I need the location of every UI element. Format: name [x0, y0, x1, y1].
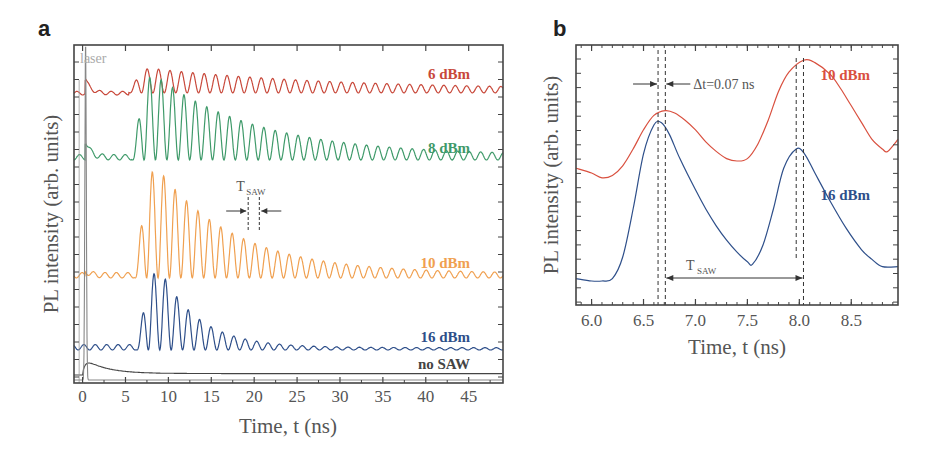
series-label-16-dbm: 16 dBm — [820, 187, 870, 203]
x-tick-label: 6.5 — [633, 311, 654, 330]
x-tick-label: 6.0 — [581, 311, 602, 330]
panel-b-letter: b — [553, 16, 566, 41]
x-tick-label: 0 — [78, 387, 87, 406]
x-tick-label: 25 — [289, 387, 306, 406]
delta-arrowhead-left — [650, 81, 657, 87]
series-label-16-dbm: 16 dBm — [420, 329, 470, 345]
tsaw-label: T — [236, 179, 245, 194]
panel-a-y-axis-label: PL intensity (arb. units) — [39, 115, 63, 314]
series-label-6-dbm: 6 dBm — [428, 66, 471, 82]
x-tick-label: 35 — [374, 387, 391, 406]
panel-b-y-axis-label: PL intensity (arb. units) — [539, 76, 563, 275]
delta-t-label: Δt=0.07 ns — [693, 77, 754, 92]
x-tick-label: 5 — [121, 387, 130, 406]
tsaw-label: T — [686, 258, 695, 273]
tsaw-arrowhead-right — [795, 275, 802, 281]
series-label-10-dbm: 10 dBm — [420, 255, 470, 271]
panel-a: a 6 dBm8 dBm10 dBm16 dBmno SAW laserTSAW… — [38, 16, 503, 438]
figure: a 6 dBm8 dBm10 dBm16 dBmno SAW laserTSAW… — [0, 0, 928, 453]
tsaw-arrowhead-right — [261, 208, 267, 214]
x-tick-label: 30 — [331, 387, 348, 406]
x-tick-label: 15 — [203, 387, 220, 406]
x-tick-label: 45 — [460, 387, 477, 406]
x-tick-label: 8.0 — [789, 311, 810, 330]
panel-b-x-axis-label: Time, t (ns) — [688, 335, 786, 359]
delta-arrowhead-right — [666, 81, 673, 87]
x-tick-label: 20 — [246, 387, 263, 406]
panel-a-curves: 6 dBm8 dBm10 dBm16 dBmno SAW — [74, 47, 503, 383]
tsaw-subscript: SAW — [246, 187, 266, 197]
panel-a-x-axis-label: Time, t (ns) — [239, 414, 337, 438]
series-label-8-dbm: 8 dBm — [428, 140, 471, 156]
x-tick-label: 8.5 — [841, 311, 862, 330]
series-label-no-saw: no SAW — [418, 356, 470, 372]
laser-label: laser — [80, 51, 107, 66]
panel-b-annotations: Δt=0.07 nsTSAW — [633, 50, 803, 305]
tsaw-subscript: SAW — [697, 266, 717, 276]
x-tick-label: 7.5 — [737, 311, 758, 330]
tsaw-arrowhead-left — [666, 275, 673, 281]
x-tick-label: 40 — [417, 387, 434, 406]
series-label-10-dbm: 10 dBm — [820, 67, 870, 83]
panel-b: b 10 dBm16 dBm Δt=0.07 nsTSAW 6.06.57.07… — [539, 16, 898, 359]
panel-b-curves: 10 dBm16 dBm — [576, 60, 898, 282]
x-tick-label: 7.0 — [685, 311, 706, 330]
tsaw-arrowhead-left — [240, 208, 246, 214]
x-tick-label: 10 — [160, 387, 177, 406]
panel-a-letter: a — [38, 16, 51, 41]
panel-a-ticks: 051015202530354045 — [74, 45, 503, 406]
